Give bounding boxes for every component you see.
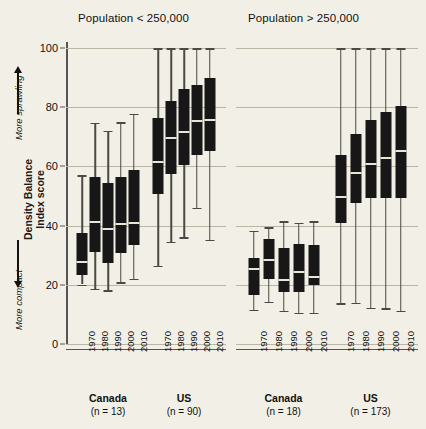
median-line — [293, 271, 304, 273]
median-line — [248, 268, 259, 270]
cap-low — [396, 311, 405, 313]
box-iqr — [308, 245, 319, 286]
panel-title-left: Population < 250,000 — [78, 12, 189, 24]
panel-title-right: Population > 250,000 — [248, 12, 359, 24]
x-tick-label-1980: 1980 — [99, 331, 110, 352]
cap-high — [264, 227, 273, 229]
y-tick-mark-80 — [60, 107, 65, 108]
cap-high — [351, 48, 360, 50]
x-tick-label-2000: 2000 — [390, 331, 401, 352]
x-tick-label-2000: 2000 — [125, 331, 136, 352]
y-tick-label-0: 0 — [28, 338, 58, 350]
cap-low — [309, 313, 318, 315]
cap-high — [396, 48, 405, 50]
x-tick-label-1970: 1970 — [258, 331, 269, 352]
x-tick-label-1980: 1980 — [360, 331, 371, 352]
box-iqr — [293, 244, 304, 292]
box-iqr — [128, 170, 139, 245]
y-tick-label-100: 100 — [28, 42, 58, 54]
median-line — [278, 279, 289, 281]
boxplot-canada-2010 — [305, 48, 323, 344]
x-tick-label-1990: 1990 — [288, 331, 299, 352]
group-sample-size-canada: (n = 18) — [244, 406, 324, 417]
group-sample-size-us: (n = 173) — [331, 406, 411, 417]
cap-high — [336, 48, 345, 50]
cap-high — [249, 231, 258, 233]
median-line — [335, 196, 346, 198]
median-line — [350, 172, 361, 174]
cap-high — [129, 114, 138, 116]
y-tick-mark-20 — [60, 284, 65, 285]
group-sample-size-canada: (n = 13) — [68, 406, 148, 417]
y-axis-annotation-high: More sprawling — [13, 76, 24, 140]
x-tick-label-2000: 2000 — [303, 331, 314, 352]
panel-left-y-axis-line — [66, 42, 68, 344]
boxplot-us-2010 — [201, 48, 219, 344]
cap-low — [351, 303, 360, 305]
group-label-canada: Canada — [244, 392, 324, 404]
x-tick-label-1990: 1990 — [112, 331, 123, 352]
box-iqr — [380, 112, 391, 198]
x-tick-label-1990: 1990 — [188, 331, 199, 352]
cap-low — [205, 240, 214, 242]
cap-low — [129, 279, 138, 281]
cap-high — [381, 48, 390, 50]
cap-low — [381, 308, 390, 310]
x-tick-label-2000: 2000 — [201, 331, 212, 352]
median-line — [308, 276, 319, 278]
boxplot-us-2010 — [392, 48, 410, 344]
box-iqr — [335, 155, 346, 222]
x-tick-label-1970: 1970 — [162, 331, 173, 352]
y-axis-title-line2: Index score — [34, 170, 46, 228]
cap-high — [294, 223, 303, 225]
y-tick-mark-0 — [60, 344, 65, 345]
box-iqr — [365, 120, 376, 198]
median-line — [263, 259, 274, 261]
cap-high — [279, 221, 288, 223]
arrow-down-icon — [17, 240, 19, 282]
box-iqr — [204, 78, 215, 151]
x-tick-label-1970: 1970 — [86, 331, 97, 352]
cap-low — [264, 302, 273, 304]
y-tick-mark-60 — [60, 166, 65, 167]
box-iqr — [278, 248, 289, 293]
cap-low — [294, 313, 303, 315]
cap-high — [309, 221, 318, 223]
x-tick-label-1990: 1990 — [375, 331, 386, 352]
x-tick-label-2010: 2010 — [405, 331, 416, 352]
median-line — [395, 150, 406, 152]
y-tick-label-20: 20 — [28, 279, 58, 291]
x-tick-label-1970: 1970 — [345, 331, 356, 352]
median-line — [204, 119, 215, 121]
figure-canvas: Population < 250,000 Population > 250,00… — [0, 0, 426, 429]
plot-panel-large-population — [236, 48, 418, 344]
box-iqr — [248, 258, 259, 295]
x-tick-label-1980: 1980 — [175, 331, 186, 352]
group-label-us: US — [331, 392, 411, 404]
y-tick-mark-100 — [60, 48, 65, 49]
y-tick-label-80: 80 — [28, 101, 58, 113]
group-label-us: US — [144, 392, 224, 404]
x-tick-label-2010: 2010 — [214, 331, 225, 352]
cap-high — [366, 48, 375, 50]
cap-low — [249, 310, 258, 312]
box-iqr — [350, 134, 361, 203]
plot-panel-small-population — [66, 48, 226, 344]
median-line — [128, 222, 139, 224]
y-axis-title-line1: Density Balance — [22, 159, 34, 240]
cap-low — [366, 308, 375, 310]
cap-low — [279, 311, 288, 313]
group-label-canada: Canada — [68, 392, 148, 404]
median-line — [380, 157, 391, 159]
group-sample-size-us: (n = 90) — [144, 406, 224, 417]
y-tick-mark-40 — [60, 225, 65, 226]
x-tick-label-2010: 2010 — [138, 331, 149, 352]
cap-high — [205, 48, 214, 50]
x-tick-label-1980: 1980 — [273, 331, 284, 352]
y-axis-title: Density Balance Index score — [22, 159, 46, 240]
boxplot-canada-2010 — [125, 48, 143, 344]
x-tick-label-2010: 2010 — [318, 331, 329, 352]
median-line — [365, 163, 376, 165]
cap-low — [336, 303, 345, 305]
arrow-up-icon — [17, 72, 19, 114]
